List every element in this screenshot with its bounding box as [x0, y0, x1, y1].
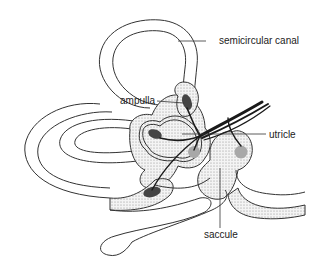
- label-utricle: utricle: [269, 129, 296, 140]
- label-semicircular-canal: semicircular canal: [219, 35, 299, 46]
- inner-ear-diagram: semicircular canal ampulla utricle saccu…: [0, 0, 315, 265]
- ampulla-superior: [175, 82, 199, 116]
- lateral-semicircular-canal: [25, 103, 112, 198]
- label-ampulla: ampulla: [120, 95, 155, 106]
- label-saccule: saccule: [204, 229, 238, 240]
- cochlear-duct: [228, 170, 305, 219]
